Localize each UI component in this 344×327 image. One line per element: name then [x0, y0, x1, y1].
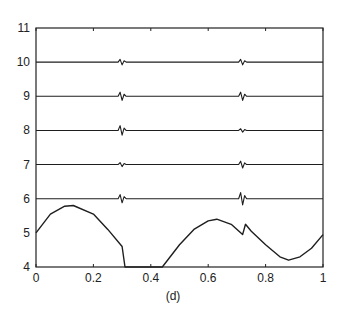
y-tick-label: 11 [18, 21, 31, 35]
x-tick-label: 0.2 [85, 271, 102, 285]
x-tick-label: 0.6 [200, 271, 217, 285]
y-tick-label: 5 [23, 226, 30, 240]
detail-line-level-10 [36, 59, 323, 64]
y-tick-label: 7 [23, 158, 30, 172]
x-tick-label: 0.4 [142, 271, 159, 285]
x-axis: 00.20.40.60.81 [33, 28, 327, 285]
detail-line-level-9 [36, 92, 323, 100]
y-tick-label: 8 [23, 123, 30, 137]
y-tick-label: 10 [17, 55, 31, 69]
x-tick-label: 0.8 [257, 271, 274, 285]
wavelet-detail-chart: 4567891011 00.20.40.60.81 (d) [0, 0, 344, 327]
signal-line [36, 206, 323, 268]
y-tick-label: 6 [23, 192, 30, 206]
y-tick-label: 4 [23, 260, 30, 274]
figure-caption: (d) [166, 289, 181, 303]
x-tick-label: 1 [320, 271, 327, 285]
x-tick-label: 0 [33, 271, 40, 285]
plot-lines [36, 59, 323, 267]
y-tick-label: 9 [23, 89, 30, 103]
detail-line-level-7 [36, 161, 323, 168]
y-axis: 4567891011 [17, 21, 31, 274]
detail-line-level-8 [36, 126, 323, 136]
detail-line-level-6 [36, 193, 323, 205]
plot-frame [36, 28, 323, 267]
